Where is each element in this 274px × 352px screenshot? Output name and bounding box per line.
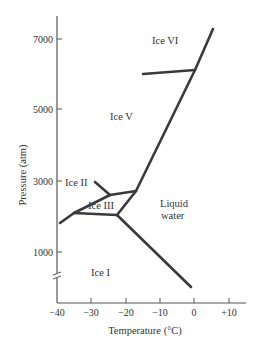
- boundary-ice5-ice6: [143, 70, 195, 74]
- label-ice5: Ice V: [110, 111, 133, 122]
- label-ice1: Ice I: [91, 267, 110, 278]
- boundary-ice1-ice3: [74, 213, 117, 215]
- x-tick-minus30: −30: [83, 307, 99, 318]
- x-tick-minus40: −40: [49, 307, 65, 318]
- boundary-ice1-liquid: [117, 215, 191, 287]
- y-tick-3000: 3000: [33, 176, 53, 187]
- x-tick-plus10: +10: [221, 307, 237, 318]
- boundary-ice1-ice2: [60, 213, 74, 223]
- label-liquid-line1: Liquid: [160, 198, 189, 209]
- y-ticks: 7000 5000 3000 1000: [33, 34, 62, 258]
- x-ticks: −40 −30 −20 −10 0 +10: [49, 298, 237, 318]
- y-tick-5000: 5000: [33, 104, 53, 115]
- y-axis-title: Pressure (atm): [17, 144, 29, 205]
- y-tick-1000: 1000: [33, 247, 53, 258]
- boundary-ice2-ice5: [95, 182, 110, 195]
- label-ice6: Ice VI: [152, 35, 179, 46]
- boundary-ice6-liquid: [195, 29, 213, 70]
- x-axis-title: Temperature (°C): [108, 325, 182, 337]
- label-liquid-line2: water: [161, 210, 185, 221]
- x-tick-minus20: −20: [118, 307, 134, 318]
- label-ice3: Ice III: [88, 200, 114, 211]
- x-tick-0: 0: [192, 307, 197, 318]
- phase-diagram: 7000 5000 3000 1000 −40 −30 −20 −10 0 +1…: [0, 0, 274, 352]
- boundary-ice5-liquid: [136, 70, 195, 191]
- label-ice2: Ice II: [65, 177, 88, 188]
- x-tick-minus10: −10: [152, 307, 168, 318]
- axes: [53, 16, 246, 303]
- phase-boundaries: [60, 29, 213, 287]
- y-axis-break-icon: [53, 272, 61, 279]
- y-tick-7000: 7000: [33, 34, 53, 45]
